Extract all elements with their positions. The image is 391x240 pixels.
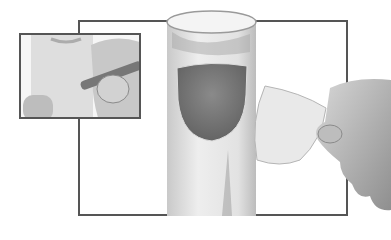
inset-frame [19,33,141,119]
inset-illustration [21,35,141,119]
hand [316,79,391,210]
cutout-piece [255,86,326,164]
